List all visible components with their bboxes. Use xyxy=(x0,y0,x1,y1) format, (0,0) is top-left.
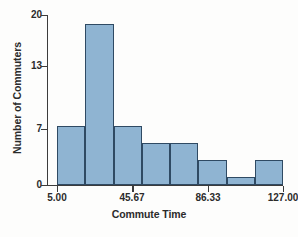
y-tick-label: 20 xyxy=(18,10,42,20)
x-axis-tick-labels: 5.00 45.67 86.33 127.00 xyxy=(0,192,298,206)
bar-series xyxy=(57,15,283,185)
histogram-bar xyxy=(227,177,255,186)
histogram-bar xyxy=(57,126,85,186)
y-tick-mark xyxy=(41,15,47,16)
y-tick-label: 7 xyxy=(18,124,42,134)
y-axis-line xyxy=(47,15,48,185)
y-tick-mark xyxy=(41,66,47,67)
histogram-bar xyxy=(142,143,170,186)
histogram-bar xyxy=(170,143,198,186)
histogram-bar xyxy=(198,160,226,186)
y-tick-label: 0 xyxy=(18,180,42,190)
x-tick-label: 127.00 xyxy=(253,192,298,204)
histogram-bar xyxy=(255,160,283,186)
x-axis-title: Commute Time xyxy=(0,208,298,220)
y-tick-label: 13 xyxy=(18,61,42,71)
x-axis-line xyxy=(47,185,283,186)
histogram-bar xyxy=(114,126,142,186)
y-tick-mark xyxy=(41,185,47,186)
x-tick-label: 86.33 xyxy=(178,192,238,204)
histogram-figure: Number of Commuters 20 13 7 0 5.00 45.67… xyxy=(0,0,298,237)
x-tick-label: 5.00 xyxy=(27,192,87,204)
x-tick-label: 45.67 xyxy=(102,192,162,204)
histogram-bar xyxy=(85,24,113,186)
y-tick-mark xyxy=(41,129,47,130)
plot-area xyxy=(57,15,283,185)
